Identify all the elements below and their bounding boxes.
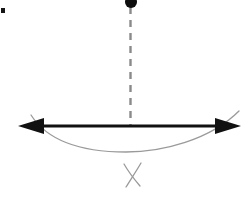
corner-speck-icon (1, 8, 5, 13)
background-rect (0, 0, 250, 197)
diagram-canvas: Pendulum bob suspended above a horizonta… (0, 0, 250, 197)
diagram-svg (0, 0, 250, 197)
